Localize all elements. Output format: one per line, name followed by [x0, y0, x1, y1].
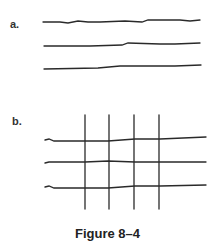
horizontal-line [45, 137, 206, 141]
horizontal-line [45, 161, 206, 163]
horizontal-line [44, 43, 200, 46]
horizontal-line [45, 185, 206, 188]
panel-b-horizontal-lines [45, 137, 206, 188]
panel-a-lines [43, 20, 201, 69]
figure-diagram [0, 0, 215, 245]
horizontal-line [43, 20, 200, 23]
figure-caption: Figure 8–4 [0, 226, 215, 241]
horizontal-line [44, 65, 201, 69]
